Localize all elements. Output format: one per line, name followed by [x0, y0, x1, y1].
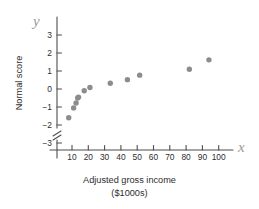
x-tick-label: 90	[198, 152, 208, 162]
x-tick-label: 30	[100, 152, 110, 162]
x-tick-group: 102030405060708090100	[67, 146, 226, 163]
data-point	[206, 57, 211, 62]
x-tick-label: 100	[212, 152, 226, 162]
x-tick-label: 80	[181, 152, 191, 162]
y-axis-title: Normal score	[14, 38, 24, 128]
x-axis-symbol: x	[237, 139, 245, 155]
data-point	[108, 81, 113, 86]
y-tick-label: 3	[47, 30, 52, 40]
y-tick-group: 3210−1−2−3	[42, 30, 61, 148]
axes-group	[50, 17, 233, 158]
y-tick-label: 2	[47, 48, 52, 58]
x-tick-label: 10	[67, 152, 77, 162]
data-point	[125, 77, 130, 82]
normal-probability-plot-figure: 3210−1−2−3 102030405060708090100 y x Nor…	[0, 0, 259, 209]
y-axis-break-icon	[53, 131, 61, 140]
x-tick-label: 70	[165, 152, 175, 162]
data-point	[137, 72, 142, 77]
x-axis-title-line1: Adjusted gross income	[0, 174, 259, 187]
data-point	[71, 105, 76, 110]
y-tick-label: −1	[42, 102, 52, 112]
data-point	[187, 67, 192, 72]
x-tick-label: 50	[133, 152, 143, 162]
data-point	[87, 85, 92, 90]
y-axis-symbol: y	[31, 13, 40, 29]
data-point	[66, 115, 71, 120]
y-tick-label: −2	[42, 120, 52, 130]
data-point	[82, 88, 87, 93]
x-tick-label: 40	[116, 152, 126, 162]
y-tick-label: 0	[47, 84, 52, 94]
y-tick-label: −3	[42, 138, 52, 148]
x-axis-title-line2: ($1000s)	[0, 187, 259, 200]
data-points-group	[66, 57, 212, 120]
data-point	[76, 94, 81, 99]
y-tick-label: 1	[47, 66, 52, 76]
x-axis-title: Adjusted gross income ($1000s)	[0, 174, 259, 199]
x-tick-label: 20	[84, 152, 94, 162]
x-tick-label: 60	[149, 152, 159, 162]
data-point	[73, 100, 78, 105]
